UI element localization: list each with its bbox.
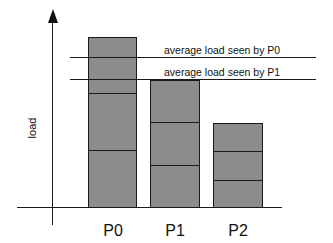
segment-divider [214, 151, 262, 152]
segment-divider [151, 165, 199, 166]
y-axis [52, 18, 53, 225]
segment-divider [214, 180, 262, 181]
average-line-p0 [70, 57, 316, 58]
bar-p1 [150, 80, 200, 208]
category-label-p2: P2 [213, 222, 263, 240]
segment-divider [151, 122, 199, 123]
category-label-p0: P0 [88, 222, 138, 240]
y-axis-arrow-icon [48, 9, 58, 23]
average-label-p1: average load seen by P1 [164, 66, 280, 78]
segment-divider [89, 150, 136, 151]
average-label-p0: average load seen by P0 [164, 44, 280, 56]
segment-divider [89, 93, 136, 94]
y-axis-label: load [26, 118, 38, 139]
bar-p2 [213, 123, 263, 208]
average-line-p1 [70, 79, 316, 80]
bar-p0 [88, 37, 137, 208]
category-label-p1: P1 [150, 222, 200, 240]
